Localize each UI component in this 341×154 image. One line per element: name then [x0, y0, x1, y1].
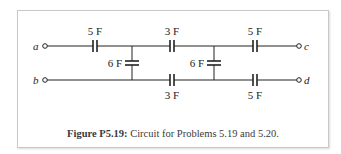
terminal-a-node — [43, 44, 48, 49]
cap-label-top-middle: 3 F — [165, 25, 179, 37]
cap-label-top-left: 5 F — [88, 25, 102, 37]
figure-caption: Figure P5.19: Circuit for Problems 5.19 … — [17, 128, 329, 139]
capacitor-bottom-middle — [170, 74, 174, 86]
terminal-c-node — [297, 44, 302, 49]
capacitor-shunt-right — [207, 61, 221, 65]
terminal-d-label: d — [304, 74, 310, 86]
capacitor-shunt-left — [125, 61, 139, 65]
terminal-c-label: c — [304, 40, 309, 52]
terminal-b-label: b — [33, 74, 39, 86]
cap-label-shunt-left: 6 F — [108, 57, 122, 69]
terminal-a-label: a — [33, 40, 39, 52]
terminal-b-node — [43, 78, 48, 83]
cap-label-bottom-middle: 3 F — [165, 89, 179, 101]
cap-label-bottom-right: 5 F — [248, 89, 262, 101]
cap-label-top-right: 5 F — [248, 25, 262, 37]
capacitor-top-left — [93, 40, 97, 52]
caption-text: Circuit for Problems 5.19 and 5.20. — [128, 128, 279, 139]
cap-label-shunt-right: 6 F — [190, 57, 204, 69]
capacitor-bottom-right — [253, 74, 257, 86]
capacitor-top-right — [253, 40, 257, 52]
terminal-d-node — [297, 78, 302, 83]
capacitor-top-middle — [170, 40, 174, 52]
caption-label: Figure P5.19: — [67, 128, 127, 139]
